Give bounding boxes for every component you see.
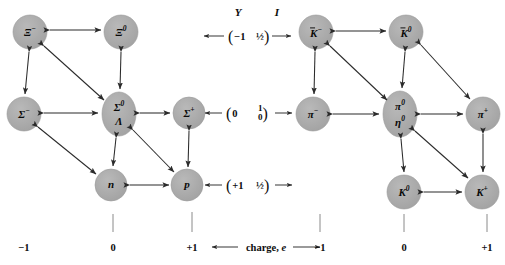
row-value-i-one-zero: 10) bbox=[258, 104, 268, 122]
arrow-sigma-zero-proton bbox=[133, 130, 174, 172]
node-shape-sigma-minus[interactable] bbox=[7, 97, 41, 131]
baryon-node-shapes bbox=[7, 15, 205, 201]
arrow-sigma-zero-neutron bbox=[113, 138, 116, 166]
node-shape-k-plus[interactable] bbox=[465, 175, 499, 209]
charge-tick-right-zero: 0 bbox=[401, 242, 406, 253]
arrow-xi-minus-sigma-zero bbox=[44, 46, 104, 100]
arrow-xi-minus-sigma-minus bbox=[25, 52, 29, 94]
arrow-kbar-zero-pi-zero bbox=[402, 52, 405, 88]
node-shape-sigma-zero-lambda[interactable] bbox=[102, 92, 136, 136]
node-shape-sigma-plus[interactable] bbox=[173, 97, 205, 129]
charge-tick-right-minus1: −1 bbox=[314, 242, 325, 253]
arrow-kbar-minus-pi-minus bbox=[314, 52, 315, 94]
charge-tick-left-minus1: −1 bbox=[18, 242, 29, 253]
charge-axis-label: charge, e bbox=[246, 242, 286, 253]
node-shape-proton[interactable] bbox=[171, 169, 203, 201]
row-value-y-minus1: (−1 bbox=[228, 27, 246, 45]
axis-header-isospin: I bbox=[275, 6, 279, 18]
arrow-kbar-zero-pi-plus bbox=[421, 45, 470, 99]
axis-connector-arrows bbox=[113, 36, 487, 247]
node-shape-xi-minus[interactable] bbox=[13, 15, 47, 49]
charge-tick-left-zero: 0 bbox=[110, 242, 115, 253]
arrow-kbar-minus-pi-zero bbox=[330, 46, 387, 100]
node-shape-kbar-minus[interactable] bbox=[299, 15, 333, 49]
charge-tick-left-plus1: +1 bbox=[186, 242, 197, 253]
arrow-sigma-minus-neutron bbox=[38, 127, 96, 174]
arrow-pi-zero-k-zero bbox=[401, 139, 404, 172]
arrow-pi-zero-k-plus bbox=[415, 131, 468, 178]
charge-tick-right-plus1: +1 bbox=[481, 242, 492, 253]
arrow-xi-zero-sigma-zero bbox=[120, 52, 121, 89]
row-value-i-half-bottom: ½) bbox=[256, 176, 269, 194]
axis-header-hypercharge: Y bbox=[235, 6, 242, 18]
row-value-y-zero: (0 bbox=[226, 104, 238, 122]
particle-octet-diagram: Ξ− Ξ0 Σ− Σ0 Λ Σ+ n p K− K0 π− π0 η0 π+ K… bbox=[0, 0, 505, 265]
node-shape-kbar-zero[interactable] bbox=[389, 15, 423, 49]
node-shape-xi-zero[interactable] bbox=[104, 15, 138, 49]
node-shape-pi-plus[interactable] bbox=[466, 97, 500, 131]
meson-node-shapes bbox=[296, 15, 500, 209]
node-shape-neutron[interactable] bbox=[95, 169, 127, 201]
arrow-sigma-plus-proton bbox=[188, 131, 189, 167]
diagram-vector-layer bbox=[0, 0, 505, 265]
row-value-i-half-top: ½) bbox=[256, 27, 269, 45]
node-shape-pi-zero-eta-zero[interactable] bbox=[383, 91, 417, 137]
node-shape-pi-minus[interactable] bbox=[296, 97, 330, 131]
node-shape-k-zero[interactable] bbox=[387, 175, 421, 209]
row-value-y-plus1: (+1 bbox=[226, 176, 244, 194]
